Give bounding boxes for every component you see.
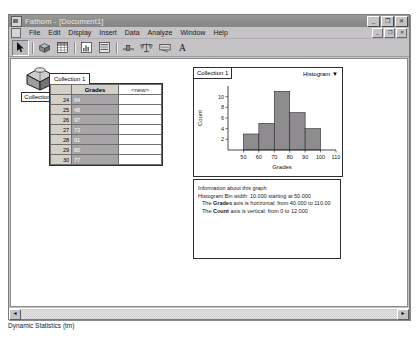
case-table[interactable]: Collection 1 Grades <new> 24 64: [49, 83, 163, 166]
table-icon: [57, 42, 68, 53]
column-header-grades[interactable]: Grades: [72, 85, 119, 95]
menu-item-edit[interactable]: Edit: [44, 29, 64, 36]
info-line-title: Information about this graph: [198, 185, 336, 193]
document-restore-button[interactable]: ❐: [384, 28, 395, 38]
document-window-controls: _ ❐ ✕: [372, 28, 409, 38]
cell-grades[interactable]: 64: [72, 95, 119, 105]
info-xaxis-attribute: Grades: [213, 200, 232, 206]
histogram-plot[interactable]: 5060708090100110246810GradesCount: [194, 68, 342, 176]
menu-item-file[interactable]: File: [25, 29, 44, 36]
cell-grades[interactable]: 80: [72, 145, 119, 155]
table-row[interactable]: 24 64: [51, 95, 162, 105]
table-row[interactable]: 29 80: [51, 145, 162, 155]
histogram-bar[interactable]: [243, 134, 258, 150]
info-line-binwidth: Histogram Bin width: 10.000 starting at …: [198, 193, 336, 201]
cell-new[interactable]: [119, 155, 162, 165]
info-yaxis-suffix: axis is vertical: from 0 to 12.000: [229, 208, 308, 214]
menu-item-window[interactable]: Window: [177, 29, 210, 36]
cell-new[interactable]: [119, 105, 162, 115]
cell-new[interactable]: [119, 145, 162, 155]
title-bar[interactable]: Fathom - [Document1] _ ❐ ✕: [9, 15, 409, 27]
info-xaxis-prefix: The: [202, 200, 213, 206]
scroll-left-button[interactable]: ◄: [9, 309, 21, 320]
x-tick-label: 70: [271, 154, 277, 160]
case-table-body: 24 64 25 48 26 97 27: [51, 95, 162, 165]
x-tick-label: 100: [316, 154, 325, 160]
cell-new[interactable]: [119, 125, 162, 135]
row-index: 30: [51, 155, 72, 165]
table-row[interactable]: 27 73: [51, 125, 162, 135]
graph-collection-label[interactable]: Collection 1: [193, 67, 232, 79]
graph-tool[interactable]: [78, 40, 95, 56]
y-tick-label: 6: [221, 115, 224, 121]
scrollbar-track[interactable]: [21, 310, 397, 319]
histogram-bar[interactable]: [290, 113, 305, 150]
histogram-bar[interactable]: [274, 91, 289, 150]
info-line-yaxis: The Count axis is vertical: from 0 to 12…: [198, 208, 336, 216]
table-corner-cell[interactable]: [51, 85, 72, 95]
menu-item-analyze[interactable]: Analyze: [144, 29, 177, 36]
column-header-new[interactable]: <new>: [119, 85, 162, 95]
menu-item-insert[interactable]: Insert: [95, 29, 121, 36]
table-header-row: Grades <new>: [51, 85, 162, 95]
graph-info-panel[interactable]: Information about this graph Histogram B…: [193, 179, 341, 259]
collection-tool[interactable]: [36, 40, 53, 56]
slider-icon: [122, 42, 135, 53]
x-tick-label: 60: [256, 154, 262, 160]
case-table-tab-label[interactable]: Collection 1: [49, 73, 90, 84]
cell-new[interactable]: [119, 115, 162, 125]
x-tick-label: 110: [332, 154, 341, 160]
cell-grades[interactable]: 77: [72, 155, 119, 165]
scroll-right-button[interactable]: ►: [397, 309, 409, 320]
cell-new[interactable]: [119, 95, 162, 105]
slider-tool[interactable]: [120, 40, 137, 56]
info-xaxis-suffix: axis is horizontal: from 40.000 to 110.0…: [232, 200, 331, 206]
document-close-button[interactable]: ✕: [396, 28, 407, 38]
row-index: 27: [51, 125, 72, 135]
estimate-icon: [159, 42, 171, 53]
balance-scale-icon: [140, 42, 153, 53]
info-line-xaxis: The Grades axis is horizontal: from 40.0…: [198, 200, 336, 208]
x-axis-label[interactable]: Grades: [272, 164, 292, 170]
menu-bar: File Edit Display Insert Data Analyze Wi…: [9, 27, 409, 39]
cell-grades[interactable]: 91: [72, 135, 119, 145]
text-a-icon: A: [178, 42, 187, 53]
test-tool[interactable]: [138, 40, 155, 56]
cell-grades[interactable]: 73: [72, 125, 119, 135]
graph-window[interactable]: Collection 1 Histogram ▼ 506070809010011…: [193, 67, 343, 177]
table-row[interactable]: 25 48: [51, 105, 162, 115]
text-tool[interactable]: A: [174, 40, 191, 56]
toolbar: A: [9, 39, 409, 57]
menu-item-display[interactable]: Display: [64, 29, 95, 36]
x-tick-label: 90: [302, 154, 308, 160]
table-row[interactable]: 26 97: [51, 115, 162, 125]
restore-button[interactable]: ❐: [381, 16, 394, 27]
table-row[interactable]: 28 91: [51, 135, 162, 145]
x-tick-label: 80: [287, 154, 293, 160]
document-icon[interactable]: [11, 28, 21, 38]
histogram-bar[interactable]: [305, 129, 320, 150]
arrow-icon: [16, 42, 25, 53]
window-controls: _ ❐ ✕: [367, 16, 408, 27]
histogram-bar[interactable]: [259, 123, 274, 150]
cell-new[interactable]: [119, 135, 162, 145]
close-button[interactable]: ✕: [395, 16, 408, 27]
document-workspace[interactable]: Collection 1 Collection 1 Grades <new> 2…: [10, 58, 408, 307]
horizontal-scrollbar[interactable]: ◄ ►: [9, 308, 409, 319]
cell-grades[interactable]: 48: [72, 105, 119, 115]
arrow-select-tool[interactable]: [12, 40, 29, 56]
menu-item-data[interactable]: Data: [121, 29, 144, 36]
status-bar: Dynamic Statistics (tm): [8, 322, 408, 329]
document-minimize-button[interactable]: _: [372, 28, 383, 38]
cell-grades[interactable]: 97: [72, 115, 119, 125]
graph-icon: [81, 42, 92, 53]
plot-type-dropdown[interactable]: Histogram ▼: [303, 70, 338, 78]
y-axis-label[interactable]: Count: [197, 110, 203, 126]
case-table-grid[interactable]: Grades <new> 24 64 25 48: [50, 84, 162, 165]
summary-table-tool[interactable]: [96, 40, 113, 56]
estimate-tool[interactable]: [156, 40, 173, 56]
minimize-button[interactable]: _: [367, 16, 380, 27]
menu-item-help[interactable]: Help: [209, 29, 231, 36]
case-table-tool[interactable]: [54, 40, 71, 56]
table-row[interactable]: 30 77: [51, 155, 162, 165]
